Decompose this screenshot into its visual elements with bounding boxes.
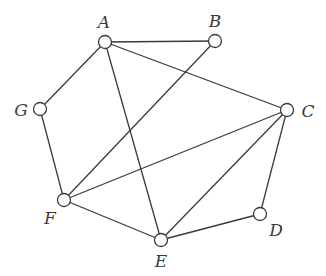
labels-group: ABCDEFG <box>14 11 314 271</box>
node-d <box>254 208 267 221</box>
edge-e-d <box>161 214 260 240</box>
edge-a-e <box>105 42 161 240</box>
node-label-b: B <box>208 11 222 31</box>
node-label-d: D <box>268 220 283 240</box>
graph-diagram: ABCDEFG <box>0 0 326 276</box>
node-label-c: C <box>301 101 314 121</box>
edge-d-c <box>260 110 287 214</box>
edge-g-f <box>40 109 64 200</box>
node-a <box>99 36 112 49</box>
edge-f-c <box>64 110 287 200</box>
node-label-f: F <box>43 208 57 228</box>
edge-f-e <box>64 200 161 240</box>
node-label-a: A <box>96 12 110 32</box>
edge-b-f <box>64 41 215 200</box>
edge-a-b <box>105 41 215 42</box>
node-b <box>209 35 222 48</box>
nodes-group <box>34 35 294 247</box>
edge-a-g <box>40 42 105 109</box>
node-f <box>58 194 71 207</box>
node-c <box>281 104 294 117</box>
node-label-g: G <box>14 100 28 120</box>
edge-a-c <box>105 42 287 110</box>
edge-e-c <box>161 110 287 240</box>
node-e <box>155 234 168 247</box>
node-label-e: E <box>154 251 168 271</box>
edges-group <box>40 41 287 240</box>
node-g <box>34 103 47 116</box>
